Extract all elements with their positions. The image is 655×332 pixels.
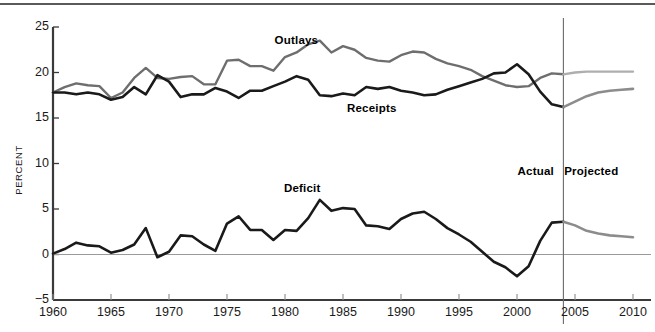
y-tick-label: 25: [35, 19, 49, 33]
y-tick-label: 5: [42, 201, 49, 215]
x-tick-label: 1965: [93, 305, 129, 319]
series-line-outlays-projected: [563, 72, 633, 75]
chart-figure: PERCENT 19601965197019751980198519901995…: [0, 0, 655, 332]
x-tick-label: 2005: [557, 305, 593, 319]
region-label-projected: Projected: [564, 165, 618, 177]
y-axis-title: PERCENT: [13, 145, 24, 195]
series-line-deficit-actual: [53, 200, 563, 276]
x-tick-label: 1960: [35, 305, 71, 319]
region-label-actual: Actual: [518, 165, 554, 177]
x-tick-label: 1995: [441, 305, 477, 319]
data-series-group: [53, 41, 633, 277]
y-tick-label: 15: [35, 110, 49, 124]
y-tick-label: 10: [35, 156, 49, 170]
x-tick-label: 1985: [325, 305, 361, 319]
series-line-receipts-projected: [563, 89, 633, 107]
x-tick-label: 1980: [267, 305, 303, 319]
x-tick-label: 2000: [499, 305, 535, 319]
y-tick-label: −5: [35, 292, 49, 306]
axes-group: [53, 27, 651, 300]
y-tick-label: 0: [42, 247, 49, 261]
chart-plot-area: PERCENT: [0, 0, 655, 332]
series-label-deficit: Deficit: [284, 182, 321, 194]
x-tick-label: 1990: [383, 305, 419, 319]
y-tick-label: 20: [35, 65, 49, 79]
x-tick-label: 1970: [151, 305, 187, 319]
x-tick-label: 2010: [615, 305, 651, 319]
series-line-deficit-projected: [563, 222, 633, 237]
x-tick-label: 1975: [209, 305, 245, 319]
series-label-outlays: Outlays: [275, 34, 319, 46]
series-label-receipts: Receipts: [347, 102, 397, 114]
